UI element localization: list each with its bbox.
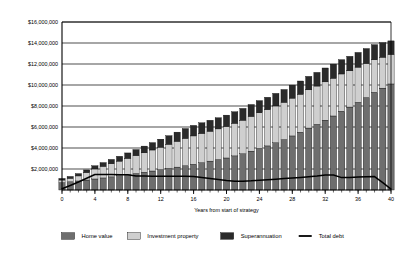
y-axis-tick-label: $2,000,000	[31, 166, 58, 172]
bar-segment	[355, 52, 361, 67]
bar-segment	[215, 118, 221, 129]
bar-segment	[256, 113, 262, 149]
bar-segment	[166, 136, 172, 145]
bar-segment	[108, 159, 114, 163]
bar-segment	[240, 108, 246, 120]
bar-segment	[273, 143, 279, 190]
bar-segment	[190, 136, 196, 164]
bar-segment	[67, 178, 73, 181]
bar-segment	[371, 92, 377, 190]
bar-segment	[199, 134, 205, 163]
bar-segment	[322, 120, 328, 190]
bar-segment	[141, 172, 147, 190]
bar-segment	[116, 176, 122, 190]
bar-segment	[232, 112, 238, 124]
bar-segment	[75, 174, 81, 176]
x-axis-tick-label: 40	[388, 196, 394, 202]
bar-segment	[158, 147, 164, 170]
bar-segment	[207, 120, 213, 131]
bar-segment	[371, 60, 377, 93]
y-axis-tick-label: $8,000,000	[31, 103, 58, 109]
bar-segment	[174, 141, 180, 167]
bar-segment	[306, 90, 312, 128]
bar-segment	[215, 160, 221, 190]
bar-segment	[100, 178, 106, 190]
bar-segment	[149, 171, 155, 190]
bar-segment	[297, 132, 303, 190]
bar-segment	[100, 166, 106, 178]
y-axis-tick-label: $6,000,000	[31, 124, 58, 130]
bar-segment	[84, 180, 90, 190]
x-axis-tick-label: 24	[256, 196, 262, 202]
bar-segment	[182, 129, 188, 139]
bar-segment	[289, 136, 295, 190]
bar-segment	[380, 43, 386, 57]
bar-segment	[133, 156, 139, 174]
bar-segment	[190, 125, 196, 136]
legend-label: Investment property	[147, 233, 198, 239]
bar-segment	[182, 166, 188, 190]
y-axis-tick-label: $10,000,000	[28, 82, 58, 88]
bar-segment	[125, 158, 131, 174]
bar-segment	[116, 156, 122, 161]
bar-segment	[330, 64, 336, 78]
bar-segment	[380, 88, 386, 190]
bar-segment	[174, 167, 180, 190]
bar-segment	[371, 45, 377, 60]
bar-segment	[339, 74, 345, 111]
bar-segment	[289, 98, 295, 136]
legend-label: Home value	[82, 233, 113, 239]
bar-segment	[314, 86, 320, 124]
bar-segment	[125, 175, 131, 190]
x-axis-tick-label: 32	[322, 196, 328, 202]
bar-segment	[256, 149, 262, 190]
bar-segment	[199, 123, 205, 134]
bar-segment	[248, 117, 254, 152]
legend-label: Superannuation	[241, 233, 282, 239]
bar-segment	[297, 81, 303, 94]
x-axis-tick-label: 8	[126, 196, 129, 202]
bar-segment	[265, 110, 271, 146]
bar-segment	[314, 124, 320, 190]
bar-segment	[248, 151, 254, 190]
legend-swatch	[127, 233, 140, 240]
x-axis-tick-label: 16	[191, 196, 197, 202]
bar-segment	[297, 94, 303, 132]
bar-segment	[84, 170, 90, 173]
bar-segment	[273, 93, 279, 106]
chart-container: $16,000,000$14,000,000$12,000,000$10,000…	[0, 0, 411, 254]
bar-segment	[306, 128, 312, 190]
bar-segment	[240, 120, 246, 154]
bar-segment	[248, 105, 254, 117]
bar-segment	[347, 56, 353, 70]
bar-segment	[289, 85, 295, 98]
x-axis-tick-label: 12	[158, 196, 164, 202]
bar-segment	[100, 163, 106, 167]
bar-segment	[207, 131, 213, 161]
bar-segment	[265, 146, 271, 190]
bar-segment	[223, 158, 229, 190]
y-axis-tick-label: $14,000,000	[28, 40, 58, 46]
bar-segment	[141, 153, 147, 172]
bar-segment	[330, 116, 336, 190]
stacked-bar-chart: $16,000,000$14,000,000$12,000,000$10,000…	[0, 0, 411, 254]
bar-segment	[141, 146, 147, 153]
bar-segment	[108, 177, 114, 190]
bar-segment	[92, 166, 98, 169]
x-axis-title: Years from start of strategy	[194, 207, 259, 213]
bar-segment	[363, 63, 369, 97]
bar-segment	[67, 176, 73, 178]
legend-swatch	[221, 233, 234, 240]
bar-segment	[232, 156, 238, 190]
bar-segment	[166, 144, 172, 168]
bar-segment	[240, 154, 246, 190]
bar-segment	[182, 138, 188, 165]
legend-label: Total debt	[319, 233, 345, 239]
bar-segment	[306, 76, 312, 89]
bar-segment	[174, 132, 180, 141]
y-axis-tick-label: $12,000,000	[28, 61, 58, 67]
bar-segment	[133, 150, 139, 156]
bar-segment	[215, 129, 221, 160]
bar-segment	[380, 57, 386, 88]
bar-segment	[256, 101, 262, 113]
